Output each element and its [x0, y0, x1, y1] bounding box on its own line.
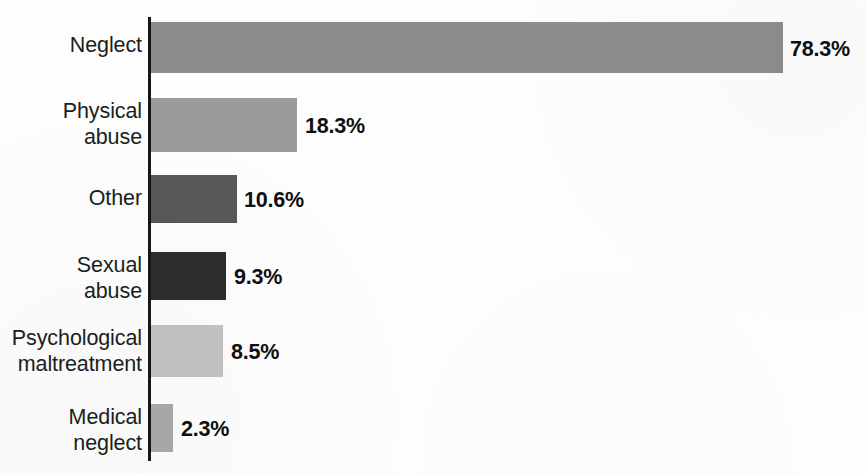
- category-label-psychological-maltreatment: Psychological maltreatment: [0, 325, 142, 377]
- bar-physical-abuse: [150, 98, 297, 152]
- category-label-medical-neglect: Medical neglect: [0, 404, 142, 456]
- value-label-physical-abuse: 18.3%: [305, 116, 365, 138]
- category-label-other: Other: [0, 185, 142, 211]
- bar-psychological-maltreatment: [150, 325, 223, 377]
- category-label-physical-abuse: Physical abuse: [0, 98, 142, 150]
- bar-sexual-abuse: [150, 252, 226, 300]
- bar-medical-neglect: [150, 404, 173, 452]
- value-label-psychological-maltreatment: 8.5%: [231, 342, 279, 364]
- value-axis-line: [148, 17, 151, 461]
- category-label-sexual-abuse: Sexual abuse: [0, 252, 142, 304]
- bar-chart: Neglect 78.3% Physical abuse 18.3% Other…: [0, 0, 865, 475]
- value-label-neglect: 78.3%: [790, 39, 850, 61]
- category-label-neglect: Neglect: [0, 32, 142, 58]
- bar-other: [150, 175, 237, 223]
- value-label-sexual-abuse: 9.3%: [234, 267, 282, 289]
- value-label-medical-neglect: 2.3%: [181, 419, 229, 441]
- bar-neglect: [150, 22, 783, 73]
- value-label-other: 10.6%: [244, 190, 304, 212]
